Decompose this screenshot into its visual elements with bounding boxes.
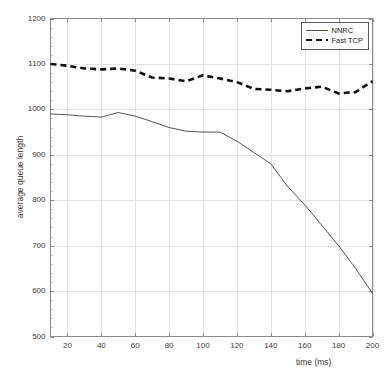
data-series-group xyxy=(51,64,373,293)
plot-frame xyxy=(51,19,373,337)
y-tick-label: 500 xyxy=(20,332,46,341)
series-line-nnrc xyxy=(51,113,373,294)
x-tick-label: 100 xyxy=(190,341,216,350)
legend-label-fast-tcp: Fast TCP xyxy=(332,36,364,46)
legend-line-dashed-icon xyxy=(306,36,328,45)
chart-legend: NNRC Fast TCP xyxy=(301,22,370,50)
y-axis-label-text: average queue length xyxy=(15,117,25,237)
x-tick-label: 80 xyxy=(156,341,182,350)
grid-lines xyxy=(51,19,374,337)
x-tick-label: 140 xyxy=(258,341,284,350)
y-tick-label: 700 xyxy=(20,241,46,250)
tick-marks xyxy=(51,19,374,338)
y-tick-label: 1100 xyxy=(20,59,46,68)
x-tick-label: 200 xyxy=(360,341,386,350)
y-tick-label: 600 xyxy=(20,286,46,295)
y-tick-label: 1000 xyxy=(20,104,46,113)
x-tick-label: 120 xyxy=(224,341,250,350)
x-axis-label-text: time (ms) xyxy=(296,357,331,367)
x-tick-label: 20 xyxy=(54,341,80,350)
legend-label-nnrc: NNRC xyxy=(332,26,354,36)
legend-item-fast-tcp: Fast TCP xyxy=(306,36,364,46)
chart-plot-area xyxy=(0,0,391,379)
series-line-fast-tcp xyxy=(51,64,373,94)
y-axis-label: average queue length xyxy=(6,120,20,240)
legend-item-nnrc: NNRC xyxy=(306,26,364,36)
legend-line-solid-icon xyxy=(306,26,328,35)
x-tick-label: 60 xyxy=(122,341,148,350)
chart-figure: 500600700800900100011001200 204060801001… xyxy=(0,0,391,379)
x-tick-label: 40 xyxy=(88,341,114,350)
x-tick-label: 160 xyxy=(292,341,318,350)
y-tick-label: 1200 xyxy=(20,14,46,23)
x-tick-label: 180 xyxy=(326,341,352,350)
